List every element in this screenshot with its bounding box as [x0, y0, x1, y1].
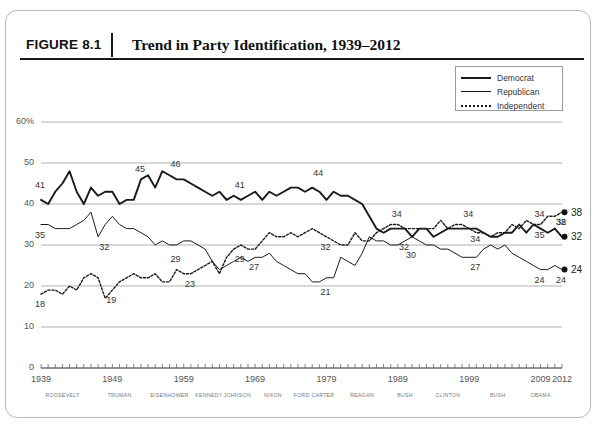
x-tick-label-1999: 1999 [449, 374, 489, 384]
point-label-republican-1939: 35 [35, 230, 45, 240]
legend-label-republican: Republican [497, 87, 540, 97]
y-tick-label-40: 40 [4, 198, 34, 208]
legend-item-democrat: Democrat [461, 71, 557, 84]
point-label-independent-1960: 23 [185, 279, 195, 289]
chart-legend: Democrat Republican Independent [455, 66, 563, 111]
point-label-republican-2009: 24 [535, 275, 545, 285]
legend-line-independent-icon [461, 101, 491, 111]
x-tick-label-1939: 1939 [21, 374, 61, 384]
point-label-independent-1967: 29 [235, 254, 245, 264]
point-label-independent-1939: 18 [35, 299, 45, 309]
point-label-democrat-1939: 41 [35, 180, 45, 190]
end-marker-republican [562, 267, 568, 273]
point-label-republican-1948: 32 [99, 242, 109, 252]
point-label-republican-2000: 27 [470, 262, 480, 272]
legend-label-independent: Independent [497, 101, 544, 111]
y-tick-label-50: 50 [4, 157, 34, 167]
point-label-republican-2012: 24 [556, 275, 566, 285]
point-label-democrat-1978: 44 [313, 168, 323, 178]
point-label-democrat-1989: 34 [392, 209, 402, 219]
point-label-democrat-1958: 46 [171, 159, 181, 169]
y-tick-label-30: 30 [4, 239, 34, 249]
legend-line-republican-icon [461, 87, 491, 97]
point-label-independent-2009: 35 [535, 230, 545, 240]
point-label-independent-2000: 34 [470, 234, 480, 244]
party-identification-line-chart: 383224 [0, 0, 599, 428]
y-tick-label-10: 10 [4, 321, 34, 331]
end-value-republican: 24 [571, 264, 583, 275]
plot-area: 383224 [0, 0, 599, 428]
point-label-republican-1979: 21 [320, 287, 330, 297]
x-tick-label-1969: 1969 [235, 374, 275, 384]
x-tick-label-1949: 1949 [92, 374, 132, 384]
point-label-republican-1969: 27 [249, 262, 259, 272]
point-label-independent-1949: 19 [106, 295, 116, 305]
president-label-obama-12: OBAMA [511, 392, 571, 398]
legend-label-democrat: Democrat [497, 73, 534, 83]
point-label-democrat-1967: 41 [235, 180, 245, 190]
legend-item-independent: Independent [461, 99, 557, 112]
point-label-independent-1990: 32 [399, 242, 409, 252]
point-label-democrat-2009: 34 [535, 209, 545, 219]
y-tick-label-60: 60% [4, 116, 34, 126]
point-label-democrat-1953: 45 [135, 164, 145, 174]
y-tick-label-0: 0 [4, 362, 34, 372]
legend-item-republican: Republican [461, 85, 557, 98]
series-line-republican [41, 212, 562, 282]
point-label-independent-2012: 38 [556, 217, 566, 227]
legend-line-democrat-icon [461, 73, 491, 83]
y-tick-label-20: 20 [4, 280, 34, 290]
point-label-republican-1958: 29 [171, 254, 181, 264]
end-value-independent: 38 [571, 207, 583, 218]
x-tick-label-1959: 1959 [164, 374, 204, 384]
end-marker-democrat [562, 234, 568, 240]
end-marker-independent [562, 209, 568, 215]
point-label-independent-1979: 32 [320, 242, 330, 252]
point-label-democrat-1999: 34 [463, 209, 473, 219]
president-label-roosevelt-0: ROOSEVELT [32, 392, 92, 398]
end-value-democrat: 32 [571, 231, 583, 242]
x-tick-label-2012: 2012 [542, 374, 582, 384]
series-line-independent [41, 212, 562, 298]
x-tick-label-1989: 1989 [378, 374, 418, 384]
x-tick-label-1979: 1979 [306, 374, 346, 384]
